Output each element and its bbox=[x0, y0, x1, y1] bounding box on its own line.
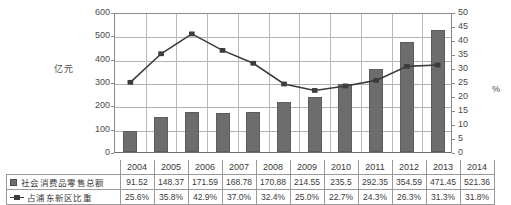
right-axis-tick-label: 25 bbox=[458, 77, 480, 87]
left-axis-tick-label: 100 bbox=[84, 124, 110, 134]
table-cell-amount: 170.88 bbox=[256, 175, 290, 190]
left-axis-tick-label: 400 bbox=[84, 54, 110, 64]
left-axis-tick-label: 600 bbox=[84, 7, 110, 17]
table-cell-share: 25.6% bbox=[120, 190, 154, 205]
table-cell-share: 35.8% bbox=[154, 190, 188, 205]
line-marker-icon bbox=[10, 194, 24, 201]
legend-label-amount: 社会消费品零售总额 bbox=[21, 178, 105, 188]
plot-area bbox=[114, 13, 452, 153]
table-cell-year: 2007 bbox=[222, 160, 256, 175]
left-axis-tick-label: 200 bbox=[84, 100, 110, 110]
table-cell-year: 2009 bbox=[290, 160, 324, 175]
table-cell-share: 22.7% bbox=[324, 190, 358, 205]
line-marker bbox=[220, 48, 226, 53]
right-axis-tick-label: 10 bbox=[458, 119, 480, 129]
table-cell-share: 37.0% bbox=[222, 190, 256, 205]
table-cell-year: 2008 bbox=[256, 160, 290, 175]
table-cell-year: 2011 bbox=[358, 160, 392, 175]
table-cell-amount: 91.52 bbox=[120, 175, 154, 190]
right-axis-tick-label: 45 bbox=[458, 21, 480, 31]
line-marker bbox=[250, 61, 256, 66]
line-marker bbox=[189, 31, 195, 36]
line-marker bbox=[373, 78, 379, 83]
table-row-share: 占浦东新区比重 25.6%35.8%42.9%37.0%32.4%25.0%22… bbox=[7, 190, 495, 205]
line-marker bbox=[128, 80, 134, 85]
table-cell-year: 2005 bbox=[154, 160, 188, 175]
table-cell-share: 31.3% bbox=[426, 190, 460, 205]
table-row-years: 2004200520062007200820092010201120122013… bbox=[7, 160, 495, 175]
left-axis-tick-label: 500 bbox=[84, 30, 110, 40]
left-axis-title: 亿元 bbox=[54, 62, 73, 75]
line-marker bbox=[404, 64, 410, 69]
table-cell-amount: 168.78 bbox=[222, 175, 256, 190]
right-axis-tick-label: 35 bbox=[458, 49, 480, 59]
table-row-amount: 社会消费品零售总额 91.52148.37171.59168.78170.882… bbox=[7, 175, 495, 190]
square-swatch-icon bbox=[10, 179, 17, 186]
plot-region: 亿元 % 6005004003002001000 504540353025201… bbox=[0, 0, 511, 168]
line-marker bbox=[312, 88, 318, 93]
table-cell-year: 2006 bbox=[188, 160, 222, 175]
table-cell-year: 2004 bbox=[120, 160, 154, 175]
left-axis-tick-label: 0 bbox=[84, 147, 110, 157]
data-table: 2004200520062007200820092010201120122013… bbox=[6, 160, 495, 205]
table-cell-share: 42.9% bbox=[188, 190, 222, 205]
table-cell-amount: 171.59 bbox=[188, 175, 222, 190]
line-marker bbox=[343, 84, 349, 89]
table-cell-year: 2013 bbox=[426, 160, 460, 175]
right-axis-tick-label: 20 bbox=[458, 91, 480, 101]
table-cell-share: 31.8% bbox=[460, 190, 494, 205]
table-cell-amount: 292.35 bbox=[358, 175, 392, 190]
table-cell-amount: 148.37 bbox=[154, 175, 188, 190]
right-axis-tick-label: 0 bbox=[458, 147, 480, 157]
right-axis-tick-label: 5 bbox=[458, 133, 480, 143]
left-axis-tick-label: 300 bbox=[84, 77, 110, 87]
line-marker bbox=[158, 51, 164, 56]
table-cell-year: 2010 bbox=[324, 160, 358, 175]
table-cell-share: 24.3% bbox=[358, 190, 392, 205]
right-axis-tick-label: 40 bbox=[458, 35, 480, 45]
right-axis-tick-label: 15 bbox=[458, 105, 480, 115]
left-axis-tick-mark bbox=[111, 153, 114, 154]
legend-label-share: 占浦东新区比重 bbox=[27, 193, 92, 203]
table-cell-share: 32.4% bbox=[256, 190, 290, 205]
line-marker bbox=[281, 82, 287, 87]
table-cell-amount: 235.5 bbox=[324, 175, 358, 190]
chart-container: 亿元 % 6005004003002001000 504540353025201… bbox=[0, 0, 511, 205]
right-axis-tick-label: 30 bbox=[458, 63, 480, 73]
table-cell-amount: 471.45 bbox=[426, 175, 460, 190]
right-axis-tick-label: 50 bbox=[458, 7, 480, 17]
legend-item-amount: 社会消费品零售总额 bbox=[7, 175, 121, 190]
legend-item-share: 占浦东新区比重 bbox=[7, 190, 121, 205]
table-cell-year: 2014 bbox=[460, 160, 494, 175]
table-cell-share: 25.0% bbox=[290, 190, 324, 205]
table-cell-amount: 521.36 bbox=[460, 175, 494, 190]
table-corner-cell bbox=[7, 160, 121, 175]
line-marker bbox=[435, 63, 441, 68]
table-cell-share: 26.3% bbox=[392, 190, 426, 205]
table-cell-amount: 214.55 bbox=[290, 175, 324, 190]
right-axis-title: % bbox=[492, 84, 501, 94]
table-cell-year: 2012 bbox=[392, 160, 426, 175]
table-cell-amount: 354.59 bbox=[392, 175, 426, 190]
line-series bbox=[115, 14, 453, 154]
